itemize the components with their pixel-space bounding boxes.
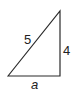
vertical-leg-label: 4 (63, 44, 70, 57)
triangle-shape (8, 11, 60, 76)
base-label: a (31, 78, 38, 91)
hypotenuse-label: 5 (24, 33, 31, 46)
